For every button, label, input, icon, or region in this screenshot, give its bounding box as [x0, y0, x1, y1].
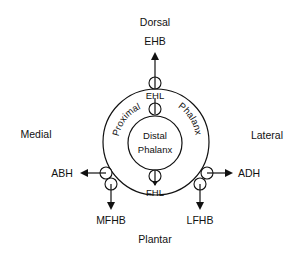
distal-label: Distal [143, 130, 167, 141]
fhl-label: FHL [146, 187, 164, 198]
phalanx-label: Phalanx [177, 100, 205, 136]
dorsal-label: Dorsal [140, 16, 170, 28]
abh-label: ABH [51, 167, 73, 179]
ehb-label: EHB [144, 35, 166, 47]
lfhb-label: LFHB [187, 214, 214, 226]
lateral-label: Lateral [251, 129, 283, 141]
medial-label: Medial [21, 128, 52, 140]
distal-phalanx-label: Phalanx [138, 144, 173, 155]
distal-phalanx-circle [128, 116, 182, 170]
adh-label: ADH [238, 167, 260, 179]
proximal-label: Proximal [110, 100, 142, 137]
plantar-label: Plantar [138, 233, 172, 245]
hallux-tendon-diagram: Dorsal Plantar Medial Lateral Proximal P… [0, 0, 297, 253]
mfhb-label: MFHB [96, 214, 126, 226]
